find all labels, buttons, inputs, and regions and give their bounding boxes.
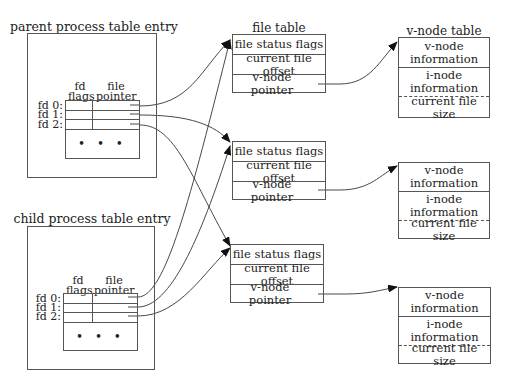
current-file-size: current file size bbox=[399, 220, 489, 239]
vnode-information: v-node information bbox=[399, 38, 489, 67]
parent-fd-flags-header: fd flags bbox=[68, 82, 92, 102]
file-table-entry-1: file status flags current file offset v-… bbox=[232, 141, 326, 200]
vnode-information: v-node information bbox=[399, 163, 489, 191]
vnode-table-entry-0: v-node information i-node information cu… bbox=[398, 37, 490, 118]
child-fd-table: • • • bbox=[63, 293, 138, 351]
vnode-table-entry-1: v-node information i-node information cu… bbox=[398, 162, 490, 239]
inode-information: i-node information bbox=[399, 67, 489, 96]
parent-fd2-label: fd 2: bbox=[33, 120, 63, 130]
column-divider bbox=[92, 101, 93, 129]
vnode-pointer: v-node pointer bbox=[233, 181, 325, 200]
arrow-file1-vnode1 bbox=[318, 166, 397, 190]
ellipsis: • • • bbox=[64, 330, 137, 344]
vnode-table-entry-2: v-node information i-node information cu… bbox=[398, 287, 491, 364]
row-divider bbox=[66, 110, 139, 111]
parent-process-title: parent process table entry bbox=[10, 21, 170, 33]
current-file-size: current file size bbox=[399, 345, 490, 364]
row-divider bbox=[66, 119, 139, 120]
arrow-file0-vnode0 bbox=[318, 42, 397, 84]
current-file-size: current file size bbox=[399, 96, 489, 118]
file-table-entry-2: file status flags current file offset v-… bbox=[230, 244, 324, 303]
parent-fd-table: • • • bbox=[65, 100, 140, 159]
vnode-pointer: v-node pointer bbox=[233, 74, 325, 93]
vnode-pointer: v-node pointer bbox=[231, 284, 323, 303]
row-divider bbox=[64, 312, 137, 313]
column-divider bbox=[92, 294, 93, 322]
file-table-title: file table bbox=[232, 22, 326, 34]
child-process-title: child process table entry bbox=[12, 213, 172, 225]
arrow-file2-vnode2 bbox=[318, 287, 397, 294]
row-divider bbox=[66, 129, 139, 130]
row-divider bbox=[64, 303, 137, 304]
file-table-entry-0: file status flags current file offset v-… bbox=[232, 34, 326, 93]
parent-file-pointer-header: file pointer bbox=[96, 82, 136, 102]
child-fd2-label: fd 2: bbox=[31, 312, 61, 322]
row-divider bbox=[64, 322, 137, 323]
vnode-information: v-node information bbox=[399, 288, 490, 316]
vnode-table-title: v-node table bbox=[398, 25, 490, 37]
ellipsis: • • • bbox=[66, 137, 139, 151]
